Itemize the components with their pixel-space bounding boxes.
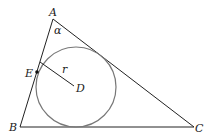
label-c: C [195, 122, 204, 135]
label-a: A [48, 6, 57, 19]
label-e: E [24, 67, 33, 80]
label-r: r [62, 63, 68, 76]
label-d: D [75, 82, 85, 95]
radius-segment-de [40, 62, 74, 86]
label-b: B [8, 121, 17, 134]
geometry-diagram: A B C D E r α [0, 0, 214, 140]
triangle-abc [20, 19, 194, 127]
label-alpha: α [54, 24, 62, 37]
point-e-marker [35, 70, 39, 74]
